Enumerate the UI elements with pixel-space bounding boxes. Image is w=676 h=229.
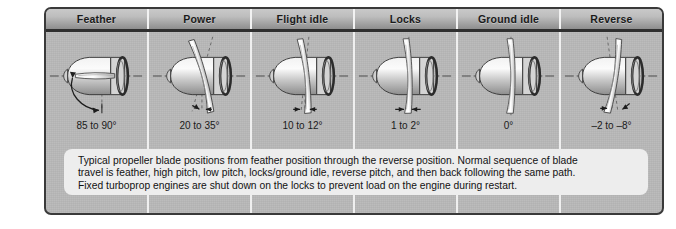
angle-label-reverse: –2 to –8° bbox=[561, 120, 662, 131]
column-header-power: Power bbox=[149, 9, 252, 29]
propeller-diagram-reverse bbox=[561, 32, 662, 120]
propeller-diagram-ground-idle bbox=[458, 32, 559, 120]
spinner-body bbox=[377, 57, 420, 94]
angle-label-feather: 85 to 90° bbox=[46, 120, 147, 131]
angle-label-flight-idle: 10 to 12° bbox=[252, 120, 353, 131]
propeller-diagram-locks bbox=[355, 32, 456, 120]
propeller-blade-positions-figure: Feather Power Flight idle Locks Ground i… bbox=[0, 0, 676, 229]
propeller-diagram-feather bbox=[46, 32, 147, 120]
propeller-blade bbox=[75, 73, 114, 79]
propeller-diagram-power bbox=[149, 32, 250, 120]
caption-line-2: travel is feather, high pitch, low pitch… bbox=[78, 167, 634, 179]
figure-caption: Typical propeller blade positions from f… bbox=[64, 149, 648, 195]
spinner-body bbox=[480, 57, 523, 94]
angle-label-power: 20 to 35° bbox=[149, 120, 250, 131]
column-header-locks: Locks bbox=[355, 9, 458, 29]
caption-line-1: Typical propeller blade positions from f… bbox=[78, 155, 634, 167]
caption-line-3: Fixed turboprop engines are shut down on… bbox=[78, 180, 634, 192]
column-header-reverse: Reverse bbox=[561, 9, 662, 29]
illustration-plate: Feather Power Flight idle Locks Ground i… bbox=[44, 7, 664, 215]
column-header-flight-idle: Flight idle bbox=[252, 9, 355, 29]
column-header-band: Feather Power Flight idle Locks Ground i… bbox=[46, 9, 662, 32]
propeller-diagram-flight-idle bbox=[252, 32, 353, 120]
angle-label-ground-idle: 0° bbox=[458, 120, 559, 131]
column-header-feather: Feather bbox=[46, 9, 149, 29]
column-header-ground-idle: Ground idle bbox=[458, 9, 561, 29]
angle-label-locks: 1 to 2° bbox=[355, 120, 456, 131]
